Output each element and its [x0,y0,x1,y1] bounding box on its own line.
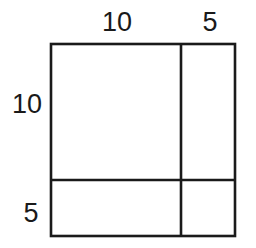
top-label-10: 10 [102,9,132,36]
left-label-10: 10 [12,91,42,118]
top-label-5: 5 [202,9,217,36]
left-label-5: 5 [23,200,38,227]
area-model-diagram: 10 5 10 5 [0,0,256,248]
outer-square [51,44,235,236]
